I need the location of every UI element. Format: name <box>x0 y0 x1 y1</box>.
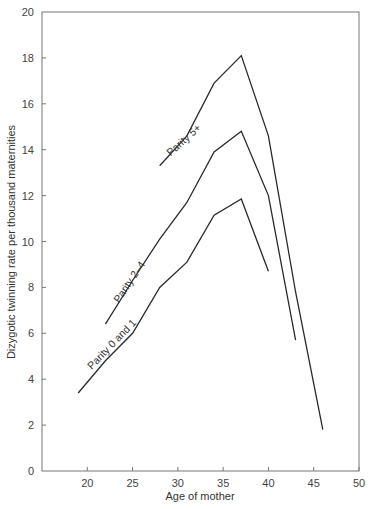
series-label-0: Parity 0 and 1 <box>85 316 139 371</box>
y-tick-label: 6 <box>28 327 34 339</box>
plot-frame <box>42 12 359 471</box>
y-tick-label: 10 <box>22 236 34 248</box>
x-tick-label: 20 <box>81 477 93 489</box>
y-tick-label: 12 <box>22 190 34 202</box>
y-tick-label: 8 <box>28 281 34 293</box>
y-tick-label: 20 <box>22 6 34 18</box>
series-line-2 <box>160 56 323 430</box>
x-axis: 20253035404550 <box>81 467 365 489</box>
x-axis-label: Age of mother <box>165 490 234 502</box>
series-labels: Parity 0 and 1Parity 2–4Parity 5+ <box>85 121 203 371</box>
x-tick-label: 50 <box>353 477 365 489</box>
y-tick-label: 2 <box>28 419 34 431</box>
series-lines <box>78 56 323 430</box>
y-tick-label: 18 <box>22 52 34 64</box>
x-tick-label: 25 <box>126 477 138 489</box>
y-axis-label: Dizygotic twinning rate per thousand mat… <box>5 124 17 359</box>
series-label-2: Parity 5+ <box>164 121 203 158</box>
y-tick-label: 0 <box>28 465 34 477</box>
x-tick-label: 45 <box>308 477 320 489</box>
y-tick-label: 14 <box>22 144 34 156</box>
series-line-0 <box>78 199 268 393</box>
y-tick-label: 16 <box>22 98 34 110</box>
twinning-rate-chart: 20253035404550 02468101214161820 Parity … <box>0 0 375 509</box>
series-line-1 <box>105 131 295 340</box>
x-tick-label: 30 <box>172 477 184 489</box>
x-tick-label: 35 <box>217 477 229 489</box>
series-label-1: Parity 2–4 <box>111 259 147 305</box>
x-tick-label: 40 <box>262 477 274 489</box>
y-tick-label: 4 <box>28 373 34 385</box>
